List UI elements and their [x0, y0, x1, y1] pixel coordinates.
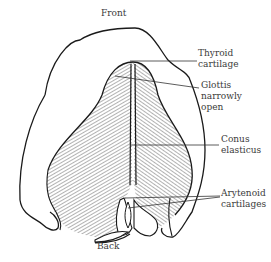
larynx-illustration [0, 0, 271, 262]
label-glottis: Glottis narrowly open [201, 80, 242, 113]
label-conus-elasticus: Conus elasticus [221, 134, 261, 156]
label-thyroid-cartilage: Thyroid cartilage [198, 48, 239, 70]
label-back: Back [97, 241, 119, 252]
label-front: Front [101, 8, 126, 19]
larynx-diagram: Front Thyroid cartilage Glottis narrowly… [0, 0, 271, 262]
label-arytenoid-cartilages: Arytenoid cartilages [221, 188, 266, 210]
